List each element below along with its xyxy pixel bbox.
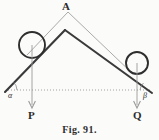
label-angle-beta: β [143,92,147,100]
figure-caption: Fig. 91. [0,124,159,135]
label-angle-alpha: α [8,92,12,100]
wedge-right-face [65,30,152,93]
label-apex-a: A [62,1,70,12]
thread-line [27,12,133,74]
figure-91: A α β P Q Fig. 91. [0,0,159,140]
label-weight-q: Q [133,110,142,121]
label-weight-p: P [28,110,35,121]
